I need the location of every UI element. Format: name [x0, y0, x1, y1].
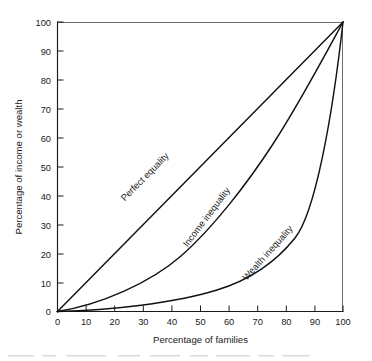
- x-tick-label: 100: [335, 317, 351, 327]
- x-tick-label: 50: [195, 317, 205, 327]
- x-tick-label: 30: [138, 317, 148, 327]
- x-tick-label: 10: [81, 317, 91, 327]
- y-tick-label: 50: [41, 163, 51, 173]
- x-axis-title: Percentage of families: [153, 334, 248, 345]
- x-tick-label: 60: [224, 317, 234, 327]
- y-tick-label: 100: [35, 18, 51, 28]
- y-tick-label: 20: [41, 250, 51, 260]
- y-tick-label: 10: [41, 279, 51, 289]
- x-tick-label: 20: [110, 317, 120, 327]
- y-tick-label: 90: [41, 47, 51, 57]
- y-tick-label: 60: [41, 134, 51, 144]
- y-tick-label: 80: [41, 76, 51, 86]
- x-tick-label: 40: [167, 317, 177, 327]
- y-tick-label: 70: [41, 105, 51, 115]
- y-tick-label: 0: [46, 307, 51, 317]
- y-axis-title: Percentage of income or wealth: [13, 100, 24, 235]
- y-tick-label: 30: [41, 221, 51, 231]
- y-tick-label: 40: [41, 192, 51, 202]
- lorenz-curve-figure: 100 90 80 70 60 50 40 30 20 10 0 0 10 20…: [0, 0, 372, 361]
- x-tick-label: 0: [55, 317, 60, 327]
- scan-edge-artifact: [8, 355, 310, 356]
- x-tick-label: 80: [281, 317, 291, 327]
- x-tick-label: 90: [310, 317, 320, 327]
- x-tick-label: 70: [253, 317, 263, 327]
